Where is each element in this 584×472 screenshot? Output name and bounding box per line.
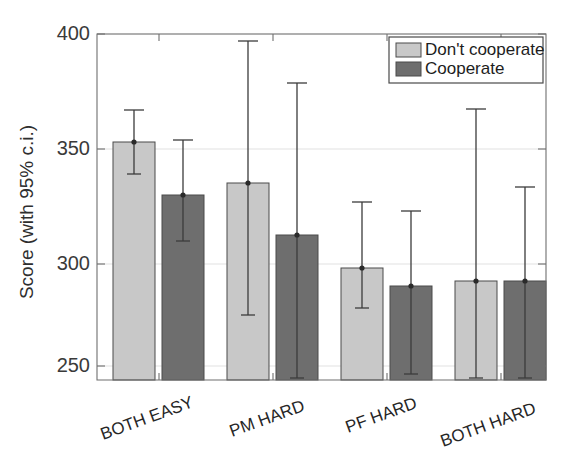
y-tick-label-300: 300 bbox=[57, 252, 90, 274]
y-tick-label-400: 400 bbox=[57, 22, 90, 44]
x-category-label-pm-hard: PM HARD bbox=[227, 396, 307, 441]
legend-label-cooperate: Cooperate bbox=[425, 59, 504, 78]
y-tick-label-250: 250 bbox=[57, 354, 90, 376]
legend-label-dont-cooperate: Don't cooperate bbox=[425, 40, 545, 59]
y-tick-label-350: 350 bbox=[57, 137, 90, 159]
legend: Don't cooperate Cooperate bbox=[389, 37, 545, 83]
chart-figure: 400 350 300 250 Score (with 95% c.i.) BO… bbox=[0, 0, 584, 472]
y-axis-label: Score (with 95% c.i.) bbox=[16, 125, 37, 299]
bar-chart-svg: 400 350 300 250 Score (with 95% c.i.) BO… bbox=[0, 0, 584, 472]
bar-both-easy-dont-cooperate[interactable] bbox=[113, 142, 155, 380]
legend-swatch-dont-cooperate bbox=[396, 43, 421, 57]
x-category-label-pf-hard: PF HARD bbox=[343, 393, 420, 436]
x-category-label-both-easy: BOTH EASY bbox=[98, 393, 196, 444]
legend-swatch-cooperate bbox=[396, 62, 421, 76]
x-category-label-both-hard: BOTH HARD bbox=[438, 399, 539, 451]
